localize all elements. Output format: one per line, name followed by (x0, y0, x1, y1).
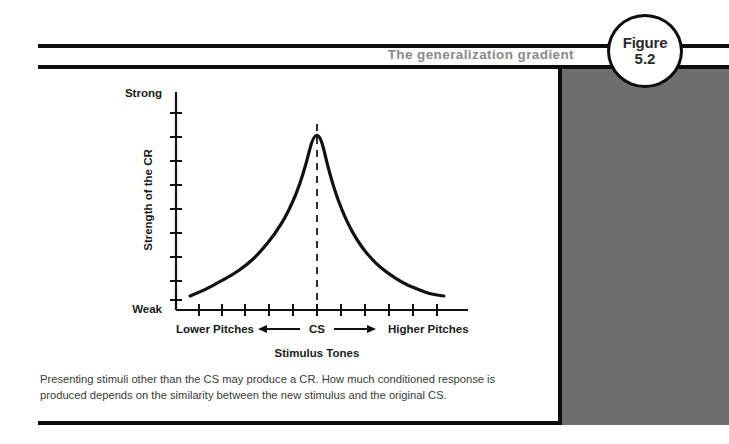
figure-panel: The generalization gradient Figure 5.2 S… (0, 0, 729, 444)
right-arrow-icon (334, 325, 376, 333)
figure-number-badge: Figure 5.2 (607, 14, 683, 88)
y-axis-bottom-label: Weak (132, 303, 162, 315)
y-axis-title: Strength of the CR (142, 149, 154, 251)
figure-badge-number: 5.2 (635, 51, 656, 67)
x-label-higher-pitches: Higher Pitches (388, 323, 469, 335)
generalization-gradient-chart: Strength of the CR Strong Weak (0, 0, 562, 370)
x-axis-title: Stimulus Tones (275, 347, 360, 359)
x-label-lower-pitches: Lower Pitches (176, 323, 254, 335)
left-arrow-icon (258, 325, 300, 333)
y-axis-top-label: Strong (125, 87, 162, 99)
bottom-rule (38, 421, 562, 425)
figure-caption: Presenting stimuli other than the CS may… (40, 372, 540, 403)
x-label-cs: CS (309, 323, 325, 335)
figure-badge-word: Figure (623, 35, 668, 50)
plot-area: Strength of the CR Strong Weak (0, 0, 562, 370)
gray-side-panel (562, 69, 729, 425)
